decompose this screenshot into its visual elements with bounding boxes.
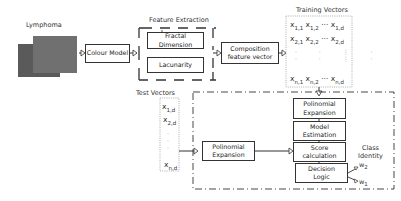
test-vectors-title: Test Vectors [136,89,175,97]
colour-model-box: Colour Model [85,44,130,63]
matrix-row: xn,1 xn,2 ··· xn,d [290,74,352,88]
score-calculation-box: Scorecalculation [293,142,346,162]
training-polinomial-expansion-box: PolinomialExpansion [293,98,346,119]
output-w1: w1 [359,178,368,187]
matrix-row: x2,1 x2,2 ··· x2,d [290,34,352,48]
lymphoma-image-front [33,36,77,73]
class-identity-label: ClassIdentity [358,144,383,161]
test-vector-xnd: xn,d [164,160,177,171]
test-vector-x2d: x2,d [163,115,176,126]
matrix-row: x1,1 x1,2 ··· x1,d [290,20,352,34]
test-vector-ellipsis: ··· [167,130,169,151]
lacunarity-box: Lacunarity [147,57,204,73]
training-vectors-matrix: x1,1 x1,2 ··· x1,d x2,1 x2,2 ··· x2,d · … [290,20,352,88]
composition-line2: feature vector [228,53,273,60]
training-vectors-title: Training Vectors [296,6,348,14]
input-label: Lymphoma [26,21,62,29]
test-polinomial-expansion-box: PolinomialExpansion [202,141,255,161]
output-w2: w2 [359,161,368,170]
fractal-dimension-box: Fractal Dimension [147,32,204,49]
decision-logic-box: DecisionLogic [295,163,348,183]
composition-line1: Composition [230,45,269,52]
matrix-ellipsis: · · ⋮ ·· · ⋮ · [290,48,352,74]
model-estimation-box: ModelEstimation [293,121,346,141]
test-vector-x1d: x1,d [162,102,175,113]
composition-feature-vector-box: Compositionfeature vector [221,42,279,64]
feature-extraction-title: Feature Extraction [149,16,209,24]
